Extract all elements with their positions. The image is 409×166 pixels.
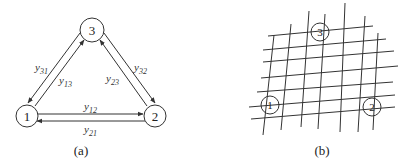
grid-hline-3 <box>263 51 394 62</box>
node-1: 1 <box>16 105 38 127</box>
grid-node-2-label: 2 <box>369 101 375 113</box>
grid-vline-2 <box>281 24 291 130</box>
diagram-a: 1 2 3 y31 y13 y23 y32 y12 y21 (a) <box>16 18 166 158</box>
edge-3-to-2 <box>104 33 155 103</box>
grid-node-3-label: 3 <box>317 26 323 38</box>
edge-label-y12: y12 <box>83 100 97 115</box>
caption-b: (b) <box>314 143 329 158</box>
grid-hline-4 <box>261 66 398 78</box>
edge-label-y21: y21 <box>83 123 97 138</box>
grid-node-1-label: 1 <box>267 99 273 111</box>
node-3: 3 <box>80 18 104 42</box>
node-1-label: 1 <box>24 109 31 124</box>
diagram-b: 1 2 3 (b) <box>249 3 398 158</box>
edge-label-y13: y13 <box>58 74 72 89</box>
grid-vline-6 <box>358 16 365 132</box>
node-2-label: 2 <box>152 109 159 124</box>
grid-node-2: 2 <box>363 98 381 116</box>
grid-vline-5 <box>340 3 345 132</box>
caption-a: (a) <box>74 143 88 158</box>
edge-label-y32: y32 <box>133 61 147 76</box>
grid-node-1: 1 <box>261 96 279 114</box>
edge-label-y23: y23 <box>105 72 119 87</box>
node-3-label: 3 <box>89 23 96 38</box>
grid-hline-2 <box>263 39 386 50</box>
grid-hline-5 <box>257 82 393 92</box>
edge-label-y31: y31 <box>34 61 48 76</box>
node-2: 2 <box>144 105 166 127</box>
grid-vline-3 <box>301 11 309 127</box>
grid-node-3: 3 <box>311 23 329 41</box>
figure-canvas: 1 2 3 y31 y13 y23 y32 y12 y21 (a) <box>0 0 409 166</box>
